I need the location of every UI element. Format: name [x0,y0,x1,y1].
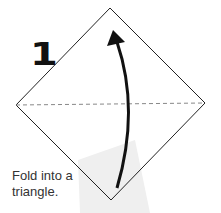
step-number: 1 [30,38,58,70]
origami-step-diagram: 1 Fold into a triangle. [0,0,221,213]
caption-line-1: Fold into a [12,168,73,184]
caption-line-2: triangle. [12,184,73,200]
instruction-caption: Fold into a triangle. [12,168,73,200]
